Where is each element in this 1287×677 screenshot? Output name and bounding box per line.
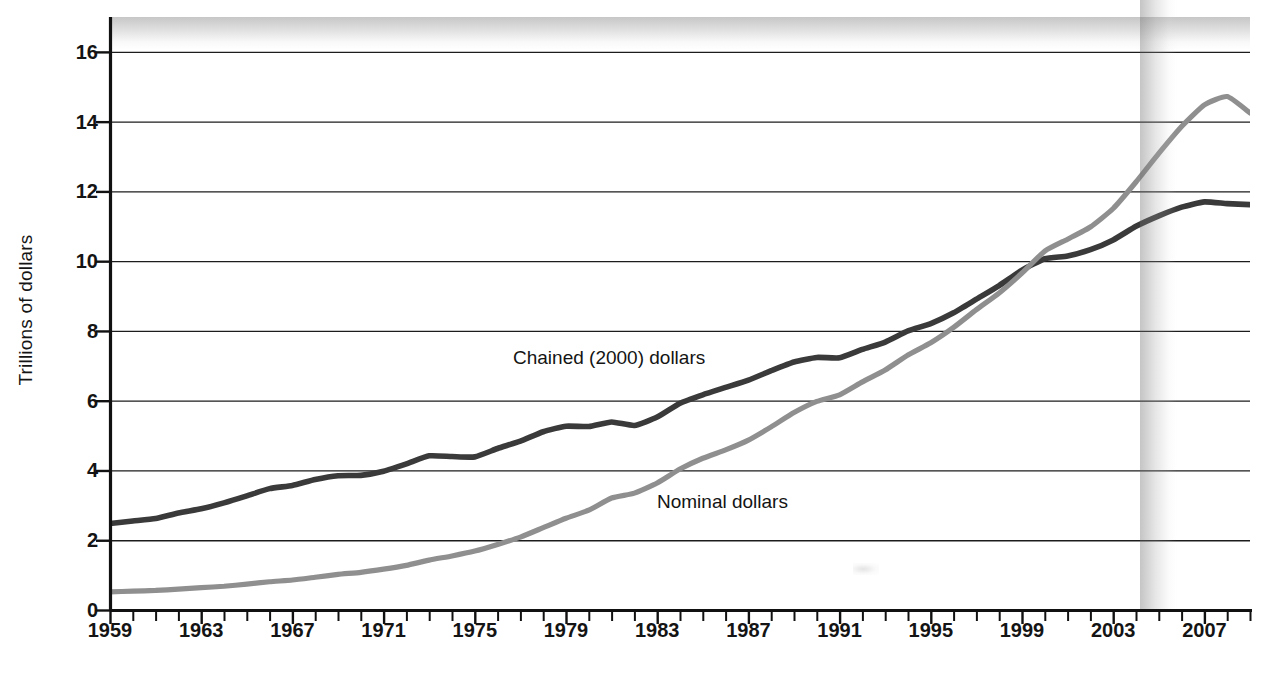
plot-svg (110, 17, 1250, 610)
x-tick-label-1999: 1999 (1000, 620, 1045, 640)
y-tick-label-8: 8 (58, 321, 98, 341)
x-axis-tick-labels: 1959196319671971197519791983198719911995… (0, 620, 1287, 660)
y-tick-label-0: 0 (58, 600, 98, 620)
y-tick-label-2: 2 (58, 530, 98, 550)
series-label-nominal: Nominal dollars (657, 491, 788, 513)
x-tick-label-1959: 1959 (88, 620, 133, 640)
x-tick-label-1967: 1967 (270, 620, 315, 640)
x-tick-label-1975: 1975 (453, 620, 498, 640)
x-tick-label-2007: 2007 (1182, 620, 1227, 640)
y-tick-label-10: 10 (58, 251, 98, 271)
x-tick-label-1983: 1983 (635, 620, 680, 640)
series-label-chained: Chained (2000) dollars (513, 347, 705, 369)
gdp-line-chart: Trillions of dollars 0246810121416 Chain… (0, 0, 1287, 677)
series-line-nominal (110, 96, 1250, 591)
y-tick-label-6: 6 (58, 391, 98, 411)
x-tick-label-1991: 1991 (817, 620, 862, 640)
x-tick-label-1979: 1979 (544, 620, 589, 640)
x-tick-label-1995: 1995 (909, 620, 954, 640)
series-lines (110, 96, 1250, 591)
y-tick-label-14: 14 (58, 112, 98, 132)
x-tick-label-1987: 1987 (726, 620, 771, 640)
y-axis-title: Trillions of dollars (0, 0, 52, 620)
plot-area (110, 17, 1250, 610)
y-axis-ticks (96, 52, 110, 610)
y-axis-tick-labels: 0246810121416 (48, 0, 98, 677)
y-axis-title-text: Trillions of dollars (15, 234, 37, 385)
y-tick-label-16: 16 (58, 42, 98, 62)
x-tick-label-1963: 1963 (179, 620, 224, 640)
x-tick-label-2003: 2003 (1091, 620, 1136, 640)
y-tick-label-12: 12 (58, 181, 98, 201)
x-tick-label-1971: 1971 (361, 620, 406, 640)
y-tick-label-4: 4 (58, 460, 98, 480)
